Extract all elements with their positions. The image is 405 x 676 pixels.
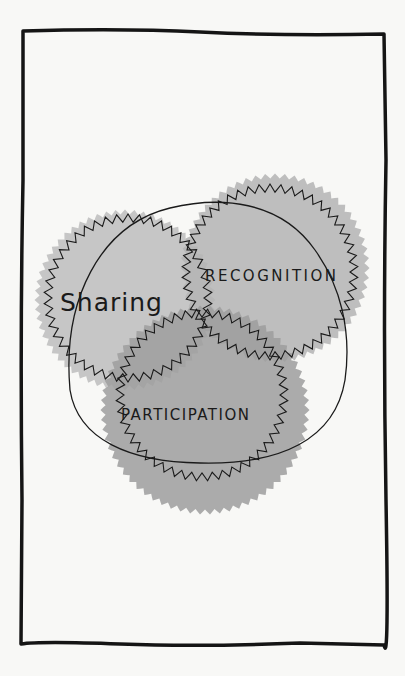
venn-illustration: Sharing RECOGNITION PARTICIPATION xyxy=(0,0,405,676)
label-recognition: RECOGNITION xyxy=(205,267,339,285)
label-sharing: Sharing xyxy=(60,288,163,317)
label-participation: PARTICIPATION xyxy=(121,406,250,424)
